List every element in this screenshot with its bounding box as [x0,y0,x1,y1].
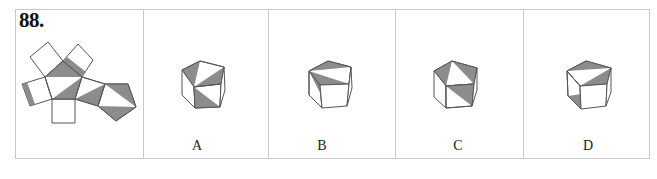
option-d-figure [0,0,657,179]
option-d-label: D [578,138,598,154]
